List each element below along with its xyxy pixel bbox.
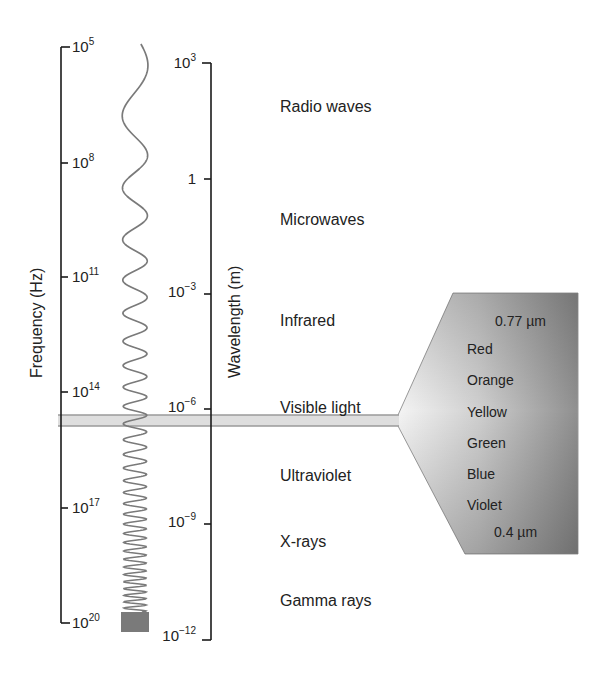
region-x-rays: X-rays	[280, 533, 326, 551]
wavelength-tick-label: 103	[174, 52, 196, 71]
visible-color-violet: Violet	[467, 497, 502, 513]
wavelength-tick-label: 10−12	[162, 625, 196, 644]
wavelength-tick-label: 10−9	[168, 511, 196, 530]
visible-color-red: Red	[467, 341, 493, 357]
visible-color-green: Green	[467, 435, 506, 451]
visible-color-yellow: Yellow	[467, 404, 507, 420]
frequency-tick-label: 1011	[72, 266, 99, 285]
region-ultraviolet: Ultraviolet	[280, 467, 351, 485]
frequency-tick-label: 105	[72, 36, 94, 55]
visible-color-blue: Blue	[467, 466, 495, 482]
region-infrared: Infrared	[280, 312, 335, 330]
region-visible-light: Visible light	[280, 399, 361, 417]
wavelength-axis-title: Wavelength (m)	[226, 266, 244, 378]
wavelength-tick-label: 1	[188, 168, 196, 187]
wavelength-tick-label: 10−6	[168, 396, 196, 415]
visible-bottom-wavelength: 0.4 µm	[494, 524, 537, 540]
visible-top-wavelength: 0.77 µm	[495, 313, 546, 329]
frequency-tick-label: 1020	[72, 612, 100, 631]
visible-color-orange: Orange	[467, 372, 514, 388]
visible-light-expansion	[398, 293, 578, 554]
frequency-axis-line	[61, 47, 70, 623]
frequency-tick-label: 1017	[72, 497, 100, 516]
frequency-tick-label: 108	[72, 152, 94, 171]
wavelength-tick-label: 10−3	[168, 281, 196, 300]
frequency-tick-label: 1014	[72, 381, 100, 400]
region-radio-waves: Radio waves	[280, 98, 372, 116]
frequency-axis-title: Frequency (Hz)	[28, 268, 46, 378]
wavelength-axis-line	[202, 63, 211, 640]
region-microwaves: Microwaves	[280, 211, 364, 229]
wave-icon	[122, 44, 148, 612]
gamma-wave-dense-block	[121, 612, 149, 632]
region-gamma-rays: Gamma rays	[280, 592, 372, 610]
